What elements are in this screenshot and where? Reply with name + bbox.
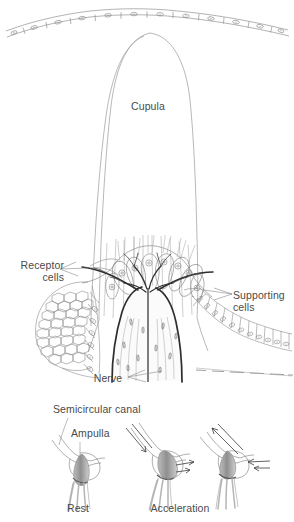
label-supporting-cells-line1: Supporting — [233, 289, 294, 302]
label-receptor-cells-line2: cells — [2, 271, 64, 284]
label-semicircular-canal: Semicircular canal — [53, 403, 193, 416]
label-nerve: Nerve — [86, 372, 130, 385]
label-acceleration: Acceleration — [140, 502, 220, 515]
label-receptor-cells-line1: Receptor — [2, 259, 64, 272]
nerve-branch-tree — [82, 253, 213, 382]
left-columnar-cells — [62, 286, 100, 378]
label-rest: Rest — [56, 502, 100, 515]
label-supporting-cells-line2: cells — [233, 301, 294, 314]
inset-semicircular-canal-acceleration-2 — [200, 424, 270, 509]
anatomical-figure: Cupula Receptor cells Supporting cells N… — [0, 0, 294, 522]
epithelial-cell-row-top — [6, 9, 289, 37]
receptor-cell-mosaic-left — [36, 282, 94, 371]
label-cupula: Cupula — [118, 100, 178, 113]
label-ampulla: Ampulla — [71, 427, 151, 440]
